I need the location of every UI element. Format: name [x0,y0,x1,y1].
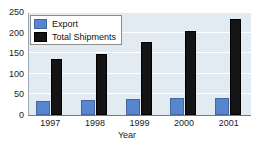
bar-total-shipments-2001 [230,19,241,115]
x-tick-label-1998: 1998 [73,118,118,128]
bar-export-2001 [215,98,229,115]
x-tick-label-1999: 1999 [117,118,162,128]
bar-export-1997 [36,101,50,115]
bar-total-shipments-1999 [141,42,152,115]
y-tick-label-50: 50 [0,89,24,99]
x-tick-label-2001: 2001 [206,118,251,128]
y-tick-label-100: 100 [0,69,24,79]
y-tick-label-150: 150 [0,48,24,58]
x-tick-label-2000: 2000 [162,118,207,128]
legend-label-export: Export [52,19,78,29]
legend-swatch-export-icon [34,19,47,29]
gridline-y-250 [29,11,251,12]
bar-export-1998 [81,100,95,115]
bar-chart-figure: ···· ····· ·· ····· ····· ····· ····· ··… [0,0,254,144]
bar-total-shipments-1998 [96,54,107,115]
y-tick-label-0: 0 [0,110,24,120]
x-axis-title: Year [0,130,254,140]
cropped-table-text-strip: ···· ····· ·· ····· ····· ····· ····· ··… [0,0,254,8]
y-tick-label-200: 200 [0,28,24,38]
cropped-table-text: ···· ····· ·· ····· ····· ····· ····· ··… [22,0,120,2]
chart-legend: Export Total Shipments [30,15,122,45]
legend-label-total-shipments: Total Shipments [52,32,116,42]
bar-total-shipments-2000 [185,31,196,115]
bar-total-shipments-1997 [51,59,62,115]
bar-export-1999 [126,99,140,115]
legend-swatch-total-shipments-icon [34,32,47,42]
bar-export-2000 [170,98,184,115]
y-tick-label-250: 250 [0,7,24,17]
legend-item-total-shipments: Total Shipments [34,31,116,42]
legend-item-export: Export [34,18,116,29]
x-tick-label-1997: 1997 [28,118,73,128]
